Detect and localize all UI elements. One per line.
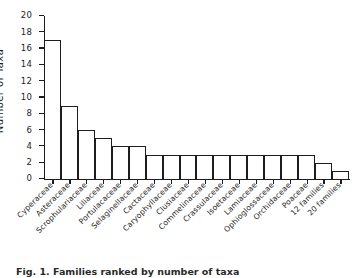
y-tick-label: 6 <box>26 125 32 135</box>
y-tick-label: 10 <box>21 92 32 102</box>
bar <box>281 155 298 179</box>
y-tick-label: 14 <box>21 59 32 69</box>
x-tick <box>323 180 324 184</box>
bar <box>264 155 281 179</box>
y-tick-label: 16 <box>21 43 32 53</box>
plot-area: 02468101214161820 <box>44 16 349 179</box>
bar-slot <box>180 16 197 179</box>
bar <box>298 155 315 179</box>
x-tick <box>120 180 121 184</box>
x-axis-label-group: CyperaceaeAsteraceaeScrophulariaceaeLili… <box>44 184 349 272</box>
bar <box>332 171 349 179</box>
bar-slot <box>298 16 315 179</box>
bar <box>44 40 61 179</box>
bar <box>315 163 332 179</box>
bar-slot <box>247 16 264 179</box>
bar <box>112 146 129 179</box>
x-tick <box>222 180 223 184</box>
bar <box>196 155 213 179</box>
x-tick <box>137 180 138 184</box>
bar-slot <box>315 16 332 179</box>
y-tick-label: 18 <box>21 27 32 37</box>
bar <box>213 155 230 179</box>
y-tick-label: 20 <box>21 10 32 20</box>
bar-slot <box>129 16 146 179</box>
x-tick <box>188 180 189 184</box>
bar-slot <box>332 16 349 179</box>
figure-caption: Fig. 1. Families ranked by number of tax… <box>16 266 352 278</box>
bar-slot <box>264 16 281 179</box>
bar-slot <box>61 16 78 179</box>
bar-group <box>44 16 349 179</box>
bar <box>78 130 95 179</box>
bar <box>247 155 264 179</box>
bar-slot <box>230 16 247 179</box>
x-tick <box>86 180 87 184</box>
x-tick <box>154 180 155 184</box>
bar-slot <box>163 16 180 179</box>
y-axis-title: Number of Taxa <box>0 16 5 166</box>
bar <box>61 106 78 179</box>
bar-slot <box>196 16 213 179</box>
bar-slot <box>44 16 61 179</box>
bar <box>95 138 112 179</box>
bar-slot <box>213 16 230 179</box>
x-tick <box>340 180 341 184</box>
bar-slot <box>95 16 112 179</box>
bar <box>180 155 197 179</box>
bar-slot <box>112 16 129 179</box>
bar-slot <box>281 16 298 179</box>
bar <box>129 146 146 179</box>
x-tick <box>52 180 53 184</box>
x-tick <box>171 180 172 184</box>
x-tick <box>69 180 70 184</box>
x-label-slot: 20 families <box>332 184 349 272</box>
x-tick <box>205 180 206 184</box>
bar <box>230 155 247 179</box>
x-tick <box>103 180 104 184</box>
y-tick-label: 8 <box>26 108 32 118</box>
y-tick-label: 2 <box>26 157 32 167</box>
bar-slot <box>78 16 95 179</box>
bar <box>163 155 180 179</box>
bar-slot <box>146 16 163 179</box>
bar <box>146 155 163 179</box>
y-tick-label: 0 <box>26 173 32 183</box>
y-tick-label: 12 <box>21 76 32 86</box>
y-tick-label: 4 <box>26 141 32 151</box>
